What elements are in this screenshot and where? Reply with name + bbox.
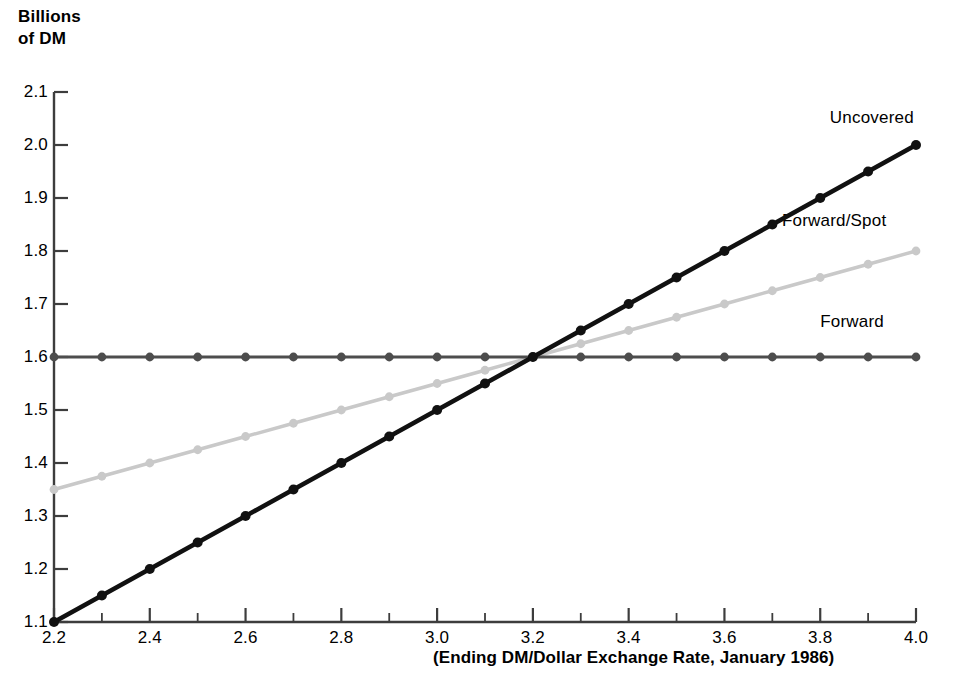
series-forward: [50, 353, 921, 362]
data-point-marker: [241, 353, 250, 362]
data-point-marker: [720, 353, 729, 362]
data-point-marker: [433, 353, 442, 362]
data-point-marker: [193, 538, 203, 548]
data-point-marker: [768, 353, 777, 362]
data-point-marker: [193, 445, 202, 454]
data-point-marker: [145, 353, 154, 362]
data-point-marker: [50, 485, 59, 494]
data-point-marker: [49, 617, 59, 627]
data-point-marker: [672, 353, 681, 362]
data-point-marker: [288, 485, 298, 495]
data-point-marker: [672, 313, 681, 322]
data-point-marker: [480, 379, 490, 389]
data-point-marker: [145, 564, 155, 574]
data-point-marker: [432, 405, 442, 415]
data-point-marker: [241, 432, 250, 441]
series-forward-spot: [50, 247, 921, 494]
data-point-marker: [241, 511, 251, 521]
data-point-marker: [864, 353, 873, 362]
data-point-marker: [816, 353, 825, 362]
data-point-marker: [336, 458, 346, 468]
data-point-marker: [50, 353, 59, 362]
data-point-marker: [481, 366, 490, 375]
data-point-marker: [481, 353, 490, 362]
data-point-marker: [672, 273, 682, 283]
data-point-marker: [385, 353, 394, 362]
data-point-marker: [528, 352, 538, 362]
chart-container: Billions of DM 2.12.01.91.81.71.61.51.41…: [0, 0, 958, 683]
data-point-marker: [385, 392, 394, 401]
data-point-marker: [624, 353, 633, 362]
data-point-marker: [289, 419, 298, 428]
data-point-marker: [912, 353, 921, 362]
data-point-marker: [576, 326, 586, 336]
data-point-marker: [720, 300, 729, 309]
data-point-marker: [337, 353, 346, 362]
data-point-marker: [624, 299, 634, 309]
data-point-marker: [767, 220, 777, 230]
data-point-marker: [576, 339, 585, 348]
data-point-marker: [815, 193, 825, 203]
data-point-marker: [863, 167, 873, 177]
data-point-marker: [912, 247, 921, 256]
data-point-marker: [97, 591, 107, 601]
data-point-marker: [911, 140, 921, 150]
data-point-marker: [97, 472, 106, 481]
data-point-marker: [768, 286, 777, 295]
data-point-marker: [576, 353, 585, 362]
data-point-marker: [816, 273, 825, 282]
plot-area: [0, 0, 958, 683]
series-uncovered: [49, 140, 921, 627]
data-point-marker: [384, 432, 394, 442]
x-axis-title: (Ending DM/Dollar Exchange Rate, January…: [433, 648, 834, 668]
data-point-marker: [97, 353, 106, 362]
data-point-marker: [433, 379, 442, 388]
data-point-marker: [624, 326, 633, 335]
data-point-marker: [289, 353, 298, 362]
data-point-marker: [145, 459, 154, 468]
data-point-marker: [719, 246, 729, 256]
data-point-marker: [337, 406, 346, 415]
data-point-marker: [864, 260, 873, 269]
data-point-marker: [193, 353, 202, 362]
